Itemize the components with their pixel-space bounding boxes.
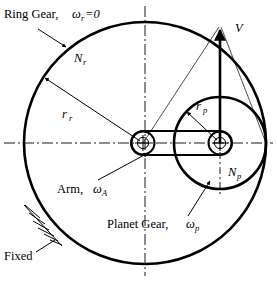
planet-radius-symbol: r [196,99,201,113]
velocity-construction-line-right [221,27,266,143]
planet-teeth-subscript: p [236,171,241,181]
fixed-label: Fixed [4,249,33,263]
planet-gear-omega-symbol: ω [186,217,195,231]
ring-radius-label: r r [62,107,73,123]
velocity-label: V [235,21,244,35]
planet-teeth-label: N p [227,165,241,181]
ring-teeth-subscript: r [83,57,87,67]
planet-gear-omega-subscript: p [194,223,199,233]
ring-gear-leader-arrow [38,29,66,47]
planet-teeth-symbol: N [227,165,237,179]
arm-label: Arm, ω A [57,182,108,198]
ring-gear-label-text: Ring Gear, [4,7,58,21]
arm-omega-symbol: ω [93,182,102,196]
planet-gear-label: Planet Gear, ω p [107,217,199,233]
ring-gear-omega-value: =0 [85,7,100,21]
arm-leader-arrow [98,153,148,180]
ring-teeth-label: N r [73,51,87,67]
planet-gear-label-text: Planet Gear, [107,217,168,231]
figure-canvas: Ring Gear, ω r =0 N r r r r p N p V Ar [0,0,277,281]
ring-radius-symbol: r [62,107,67,121]
arm-omega-subscript: A [101,188,108,198]
ring-radius-arrow [45,78,140,141]
planet-gear-leader-arrow [188,181,210,216]
ring-gear-label: Ring Gear, ω r =0 [4,7,100,23]
ring-teeth-symbol: N [73,51,83,65]
planet-radius-subscript: p [202,105,207,115]
fixed-leader-line [36,240,55,252]
velocity-construction-line-left [143,27,219,143]
ring-radius-subscript: r [69,113,73,123]
planet-radius-arrow [187,112,217,140]
arm-label-text: Arm, [57,182,83,196]
planetary-gear-diagram: Ring Gear, ω r =0 N r r r r p N p V Ar [0,0,277,281]
ring-gear-omega-symbol: ω [72,7,81,21]
